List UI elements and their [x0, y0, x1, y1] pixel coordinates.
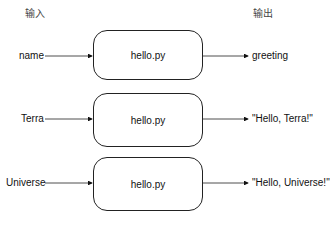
output-label-hello-terra: "Hello, Terra!": [252, 113, 313, 125]
input-label-name: name: [19, 50, 44, 62]
input-label-terra: Terra: [21, 113, 44, 125]
program-label: hello.py: [131, 179, 165, 190]
output-label-greeting: greeting: [252, 50, 288, 62]
input-label-universe: Universe: [6, 177, 45, 189]
program-box-3: hello.py: [93, 157, 203, 211]
output-label-hello-universe: "Hello, Universe!": [252, 177, 330, 189]
program-label: hello.py: [131, 50, 165, 61]
program-box-1: hello.py: [93, 30, 203, 80]
program-box-2: hello.py: [93, 93, 203, 147]
program-label: hello.py: [131, 115, 165, 126]
